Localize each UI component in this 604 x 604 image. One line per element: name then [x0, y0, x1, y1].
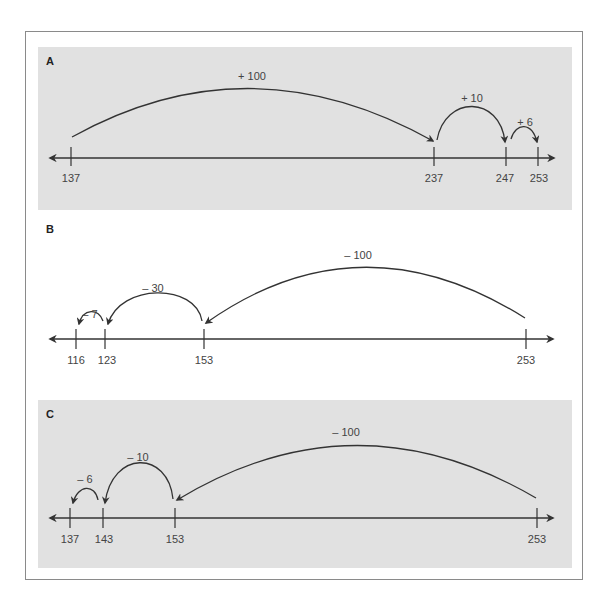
tick-label-a-247: 247 — [496, 172, 514, 184]
jump-arc-a-100 — [72, 88, 433, 141]
jump-label-c-6: – 6 — [77, 473, 92, 485]
jump-arc-a-10 — [437, 106, 505, 142]
tick-label-c-143: 143 — [95, 533, 113, 545]
tick-label-b-116: 116 — [67, 354, 85, 366]
jump-label-b-7: – 7 — [82, 308, 97, 320]
tick-label-c-253: 253 — [528, 533, 546, 545]
jump-label-b-30: – 30 — [142, 282, 163, 294]
tick-label-b-123: 123 — [98, 354, 116, 366]
number-line-c: 137 143 153 253 – 100 – 10 – 6 — [50, 426, 553, 545]
jump-label-b-100: – 100 — [344, 249, 372, 261]
jump-label-a-6: + 6 — [517, 116, 533, 128]
jump-arc-b-30 — [108, 293, 202, 324]
number-line-diagrams: 137 237 247 253 + 100 + 10 + 6 116 123 1… — [0, 0, 604, 604]
jump-label-a-10: + 10 — [461, 92, 483, 104]
jump-arc-b-100 — [206, 267, 525, 323]
jump-label-a-100: + 100 — [238, 70, 266, 82]
tick-label-b-153: 153 — [195, 354, 213, 366]
tick-label-c-137: 137 — [61, 533, 79, 545]
tick-label-a-137: 137 — [62, 172, 80, 184]
number-line-a: 137 237 247 253 + 100 + 10 + 6 — [50, 70, 554, 184]
tick-label-a-253: 253 — [530, 172, 548, 184]
jump-arc-c-6 — [73, 488, 98, 503]
jump-arc-c-10 — [105, 463, 173, 503]
tick-label-a-237: 237 — [425, 172, 443, 184]
tick-label-c-153: 153 — [166, 533, 184, 545]
jump-label-c-100: – 100 — [332, 426, 360, 438]
jump-label-c-10: – 10 — [127, 451, 148, 463]
jump-arc-c-100 — [177, 445, 536, 500]
number-line-b: 116 123 153 253 – 100 – 30 – 7 — [50, 249, 553, 366]
tick-label-b-253: 253 — [517, 354, 535, 366]
jump-arc-a-6 — [511, 127, 537, 142]
